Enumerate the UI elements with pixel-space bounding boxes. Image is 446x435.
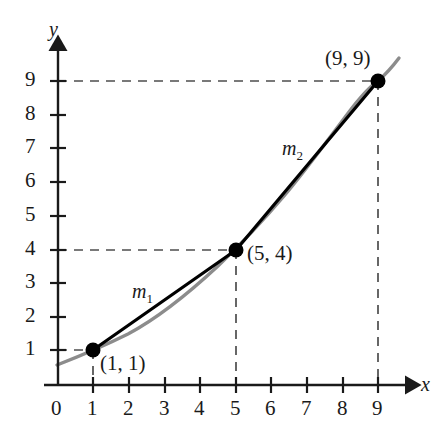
x-tick-label-7: 7 <box>301 398 312 419</box>
slope-label-m1-base: m <box>132 280 146 302</box>
y-axis-label: y <box>49 19 58 39</box>
point-label-1-1: (1, 1) <box>100 353 146 374</box>
slope-label-m1: m1 <box>132 281 153 305</box>
y-tick-label-9: 9 <box>25 69 36 90</box>
data-point-5-4 <box>229 243 244 258</box>
slope-label-m2-sub: 2 <box>296 148 303 163</box>
y-tick-label-5: 5 <box>25 204 36 225</box>
x-tick-label-0: 0 <box>51 398 62 419</box>
point-label-5-4: (5, 4) <box>247 243 293 264</box>
x-axis-label: x <box>421 374 430 394</box>
x-tick-label-8: 8 <box>337 398 348 419</box>
x-tick-label-4: 4 <box>194 398 205 419</box>
y-tick-label-4: 4 <box>25 238 36 259</box>
x-tick-label-6: 6 <box>265 398 276 419</box>
secant-line-m1 <box>93 250 236 350</box>
slope-label-m2: m2 <box>282 138 303 162</box>
function-curve <box>57 58 399 365</box>
y-tick-label-2: 2 <box>25 305 36 326</box>
secant-lines-figure: y x 9 8 7 6 5 4 3 2 1 0 1 2 3 4 5 6 7 8 … <box>0 0 446 435</box>
slope-label-m2-base: m <box>282 137 296 159</box>
x-tick-label-1: 1 <box>87 398 98 419</box>
plot-canvas <box>0 0 446 435</box>
secant-line-m2 <box>236 81 378 250</box>
data-point-1-1 <box>86 343 101 358</box>
y-tick-label-1: 1 <box>25 338 36 359</box>
slope-label-m1-sub: 1 <box>146 291 153 306</box>
y-tick-label-8: 8 <box>25 103 36 124</box>
point-label-9-9: (9, 9) <box>325 48 371 69</box>
y-tick-label-6: 6 <box>25 170 36 191</box>
x-tick-label-9: 9 <box>372 398 383 419</box>
y-tick-label-7: 7 <box>25 136 36 157</box>
data-point-9-9 <box>371 74 386 89</box>
x-tick-label-3: 3 <box>159 398 170 419</box>
x-tick-label-2: 2 <box>123 398 134 419</box>
x-tick-label-5: 5 <box>230 398 241 419</box>
y-tick-label-3: 3 <box>25 271 36 292</box>
